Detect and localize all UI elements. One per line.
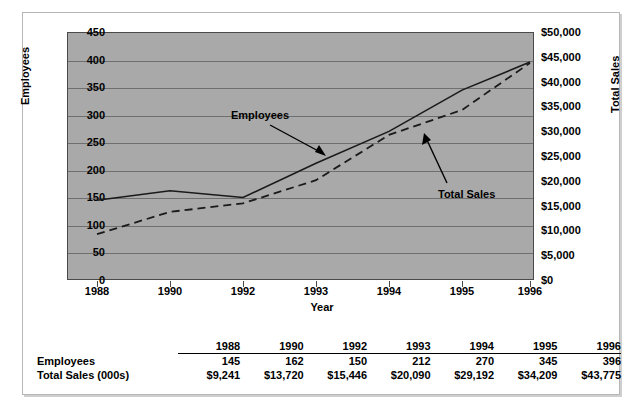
table-cell: 150 [304,354,367,369]
y2-tick-label: $45,000 [541,51,611,63]
y2-tick-label: $5,000 [541,249,611,261]
data-table: 1988 1990 1992 1993 1994 1995 1996 Emplo… [37,339,621,382]
gridline [68,116,533,117]
table-cell: $9,241 [178,368,240,382]
data-table-wrap: 1988 1990 1992 1993 1994 1995 1996 Emplo… [23,313,621,396]
table-header-cell: 1994 [431,339,494,354]
y2-tick-label: $25,000 [541,150,611,162]
gridline [68,143,533,144]
table-cell: $29,192 [431,368,494,382]
table-cell: 212 [367,354,430,369]
chart-figure: Employees Total Sales Year 450 400 350 3… [22,12,620,395]
gridline [68,253,533,254]
y-tick-label: 250 [45,136,105,148]
table-cell: 396 [557,354,621,369]
y-tick-label: 0 [45,274,105,286]
y-tick-label: 450 [45,26,105,38]
y-tick-label: 150 [45,191,105,203]
table-cell: $34,209 [494,368,557,382]
y2-tick-label: $35,000 [541,100,611,112]
gridline [68,61,533,62]
table-cell: 270 [431,354,494,369]
gridline [68,88,533,89]
x-tick-label: 1993 [304,285,328,297]
table-cell: $43,775 [557,368,621,382]
y2-tick-label: $50,000 [541,26,611,38]
annotation-label-employees: Employees [231,109,289,121]
table-cell: 162 [240,354,303,369]
table-header-cell: 1990 [240,339,303,354]
table-cell: $20,090 [367,368,430,382]
table-header-cell: 1996 [557,339,621,354]
y2-tick-label: $40,000 [541,76,611,88]
table-cell: $15,446 [304,368,367,382]
x-tick-label: 1994 [377,285,401,297]
table-header-cell: 1995 [494,339,557,354]
table-cell: $13,720 [240,368,303,382]
table-cell: 345 [494,354,557,369]
y2-tick-label: $20,000 [541,175,611,187]
x-axis-title: Year [23,301,621,313]
y2-tick-label: $0 [541,274,611,286]
y-tick-label: 50 [45,246,105,258]
table-row: Total Sales (000s) $9,241 $13,720 $15,44… [37,368,621,382]
y2-tick-label: $15,000 [541,200,611,212]
x-tick-label: 1988 [85,285,109,297]
table-row-label: Total Sales (000s) [37,368,178,382]
table-header-row: 1988 1990 1992 1993 1994 1995 1996 [37,339,621,354]
chart-area: Employees Total Sales Year 450 400 350 3… [23,13,621,313]
table-header-cell: 1992 [304,339,367,354]
table-cell: 145 [178,354,240,369]
table-header-cell: 1988 [178,339,240,354]
table-corner-cell [37,339,178,354]
plot-area [67,32,534,280]
table-row-label: Employees [37,354,178,369]
y-tick-label: 300 [45,109,105,121]
x-tick-label: 1995 [450,285,474,297]
y-tick-label: 200 [45,164,105,176]
gridline [68,226,533,227]
y2-tick-label: $30,000 [541,125,611,137]
x-tick-label: 1992 [231,285,255,297]
x-tick-label: 1996 [518,285,542,297]
x-tick-label: 1990 [158,285,182,297]
gridline [68,171,533,172]
y-tick-label: 100 [45,219,105,231]
y-tick-label: 350 [45,81,105,93]
table-header-cell: 1993 [367,339,430,354]
y-axis-title: Employees [19,47,31,105]
table-row: Employees 145 162 150 212 270 345 396 [37,354,621,369]
y2-tick-label: $10,000 [541,224,611,236]
y-tick-label: 400 [45,54,105,66]
annotation-label-total-sales: Total Sales [438,188,495,200]
